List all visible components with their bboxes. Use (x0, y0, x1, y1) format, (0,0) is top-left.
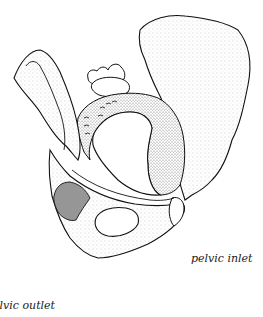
pelvis-illustration (0, 0, 263, 317)
pubic-symphysis (169, 197, 184, 226)
label-pelvic-outlet-partial: pelvic outlet (0, 299, 55, 312)
label-pelvic-inlet: pelvic inlet (191, 252, 253, 265)
ilium-wing-left (14, 50, 80, 160)
